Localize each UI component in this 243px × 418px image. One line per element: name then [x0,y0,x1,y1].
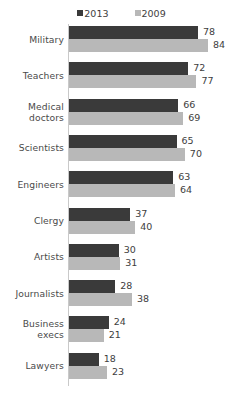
bar-2009[interactable] [69,293,132,306]
category-label-line: Military [29,34,64,45]
bar-2013[interactable] [69,135,177,148]
bar-group: Clergy3740 [0,207,243,245]
bar-2013[interactable] [69,62,188,75]
category-label: Clergy [0,207,64,235]
bar-value-label: 21 [109,328,121,341]
category-label-line: Artists [34,251,64,262]
category-label: Journalists [0,279,64,307]
bar-2009[interactable] [69,184,175,197]
bar-value-label: 31 [125,256,137,269]
bar-value-label: 37 [135,207,147,220]
bar-2009[interactable] [69,112,183,125]
bar-value-label: 77 [201,74,213,87]
category-label: Lawyers [0,352,64,380]
bar-value-label: 69 [188,111,200,124]
category-label-line: Medical [28,101,64,112]
bar-value-label: 72 [193,61,205,74]
category-label-line: Engineers [17,179,64,190]
legend-swatch-icon [135,10,141,16]
chart-legend: 20132009 [0,5,243,21]
bar-2013[interactable] [69,353,99,366]
bar-value-label: 78 [203,25,215,38]
bar-group: Businessexecs2421 [0,315,243,353]
bar-value-label: 18 [104,352,116,365]
bar-group: Artists3031 [0,243,243,281]
category-label-line: Teachers [23,70,64,81]
category-label: Engineers [0,170,64,198]
category-label: Military [0,25,64,53]
bar-2009[interactable] [69,39,208,52]
bar-2009[interactable] [69,75,196,88]
bar-group: Military7884 [0,25,243,63]
legend-label: 2009 [142,8,166,19]
category-label: Businessexecs [0,315,64,343]
bar-2013[interactable] [69,244,119,257]
bar-2013[interactable] [69,26,198,39]
bar-value-label: 65 [182,134,194,147]
category-label: Artists [0,243,64,271]
bar-2009[interactable] [69,329,104,342]
bar-value-label: 38 [137,292,149,305]
bar-group: Medicaldoctors6669 [0,98,243,136]
bar-2009[interactable] [69,366,107,379]
grouped-bar-chart: 20132009 Military7884Teachers7277Medical… [0,0,243,418]
legend-item-2013: 2013 [77,8,108,19]
bar-group: Engineers6364 [0,170,243,208]
bar-group: Lawyers1823 [0,352,243,390]
bar-2013[interactable] [69,208,130,221]
bar-group: Journalists2838 [0,279,243,317]
bar-2009[interactable] [69,257,120,270]
bar-value-label: 66 [183,98,195,111]
category-label-line: Lawyers [25,360,64,371]
bar-value-label: 28 [120,279,132,292]
bar-value-label: 30 [124,243,136,256]
category-label: Scientists [0,134,64,162]
bar-2009[interactable] [69,148,185,161]
category-label-line: Journalists [15,288,64,299]
bar-group: Teachers7277 [0,61,243,99]
bar-2009[interactable] [69,221,135,234]
bar-value-label: 63 [178,170,190,183]
bar-2013[interactable] [69,99,178,112]
category-label-line: Scientists [19,142,64,153]
bar-value-label: 84 [213,38,225,51]
bar-value-label: 40 [140,220,152,233]
category-label-line: Business [23,318,64,329]
category-label-line: Clergy [34,215,64,226]
category-label-line: execs [37,329,64,340]
legend-swatch-icon [77,10,83,16]
bar-2013[interactable] [69,316,109,329]
legend-label: 2013 [84,8,108,19]
bar-2013[interactable] [69,280,115,293]
bar-value-label: 64 [180,183,192,196]
category-label-line: doctors [29,112,64,123]
category-label: Medicaldoctors [0,98,64,126]
bar-value-label: 24 [114,315,126,328]
legend-item-2009: 2009 [135,8,166,19]
plot-area: Military7884Teachers7277Medicaldoctors66… [0,24,243,404]
bar-value-label: 23 [112,365,124,378]
category-label: Teachers [0,61,64,89]
bar-2013[interactable] [69,171,173,184]
bar-value-label: 70 [190,147,202,160]
bar-group: Scientists6570 [0,134,243,172]
